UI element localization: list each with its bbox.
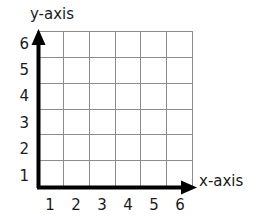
- grid-cell: [167, 110, 193, 136]
- y-tick-label-6: 6: [11, 37, 29, 52]
- grid-cell: [167, 135, 193, 161]
- grid-cell: [90, 161, 116, 187]
- y-axis-title: y-axis: [30, 5, 74, 23]
- grid-cell: [167, 84, 193, 110]
- plot-grid: [37, 31, 193, 187]
- grid-cell: [167, 58, 193, 84]
- grid-cell: [141, 58, 167, 84]
- grid-cell: [141, 84, 167, 110]
- grid-cell: [90, 58, 116, 84]
- x-axis-title: x-axis: [199, 172, 243, 190]
- y-tick-label-5: 5: [11, 63, 29, 78]
- grid-cell: [90, 110, 116, 136]
- x-tick-label-3: 3: [92, 198, 112, 213]
- grid-cell: [90, 32, 116, 58]
- grid-cell: [38, 32, 64, 58]
- grid-cell: [116, 32, 142, 58]
- grid-cell: [64, 32, 90, 58]
- grid-cell: [38, 58, 64, 84]
- grid-cell: [64, 110, 90, 136]
- grid-cell: [141, 135, 167, 161]
- grid-cell: [116, 84, 142, 110]
- y-tick-label-2: 2: [11, 142, 29, 157]
- grid-cell: [64, 84, 90, 110]
- coordinate-grid-figure: y-axis x-axis: [0, 0, 262, 223]
- x-tick-label-2: 2: [66, 198, 86, 213]
- grid-cell: [64, 161, 90, 187]
- grid-cell: [167, 32, 193, 58]
- y-tick-label-3: 3: [11, 116, 29, 131]
- grid-cell: [116, 58, 142, 84]
- x-tick-label-5: 5: [144, 198, 164, 213]
- grid-cell: [141, 161, 167, 187]
- x-tick-label-1: 1: [40, 198, 60, 213]
- grid-cell: [64, 135, 90, 161]
- grid-cell: [167, 161, 193, 187]
- grid-cell: [38, 84, 64, 110]
- grid-cell: [38, 161, 64, 187]
- grid-cell: [64, 58, 90, 84]
- y-tick-label-4: 4: [11, 89, 29, 104]
- grid-cell: [141, 110, 167, 136]
- grid-cell: [116, 135, 142, 161]
- grid-cell: [38, 110, 64, 136]
- x-tick-label-6: 6: [170, 198, 190, 213]
- grid-cell: [38, 135, 64, 161]
- grid-cell: [116, 110, 142, 136]
- grid-cell: [116, 161, 142, 187]
- grid-cell: [141, 32, 167, 58]
- x-tick-label-4: 4: [118, 198, 138, 213]
- grid-cell: [90, 84, 116, 110]
- grid-cell: [90, 135, 116, 161]
- y-tick-label-1: 1: [11, 169, 29, 184]
